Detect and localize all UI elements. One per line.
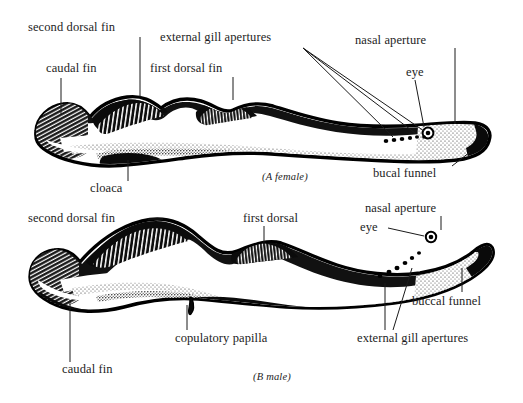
- label-cloaca-a: cloaca: [90, 182, 123, 195]
- label-caudal-fin-b: caudal fin: [62, 363, 113, 376]
- label-second-dorsal-fin-b: second dorsal fin: [28, 212, 115, 225]
- label-external-gill-apertures-b: external gill apertures: [357, 332, 468, 345]
- lamprey-anatomy-figure: second dorsal fin caudal fin first dorsa…: [0, 0, 523, 403]
- copulatory-papilla-marker: [189, 297, 194, 315]
- label-first-dorsal-fin-a: first dorsal fin: [150, 62, 222, 75]
- label-nasal-aperture-a: nasal aperture: [355, 34, 426, 47]
- label-nasal-aperture-b: nasal aperture: [365, 202, 436, 215]
- label-copulatory-papilla: copulatory papilla: [175, 332, 267, 345]
- label-caudal-fin-a: caudal fin: [46, 62, 97, 75]
- leader-eye-a: [415, 80, 424, 127]
- label-first-dorsal-b: first dorsal: [243, 212, 298, 225]
- label-eye-b: eye: [360, 221, 378, 234]
- label-bucal-funnel-a: bucal funnel: [373, 167, 436, 180]
- leader-eye-b: [388, 228, 424, 236]
- label-eye-a: eye: [406, 66, 424, 79]
- caption-panel-b: (B male): [253, 371, 291, 382]
- specimen-a-drawing: [30, 37, 500, 181]
- label-buccal-funnel-b: buccal funnel: [412, 295, 481, 308]
- caption-panel-a: (A female): [262, 171, 308, 182]
- eye-marker-b: [426, 232, 436, 242]
- label-external-gill-apertures-a: external gill apertures: [160, 31, 271, 44]
- label-second-dorsal-fin-a: second dorsal fin: [28, 21, 115, 34]
